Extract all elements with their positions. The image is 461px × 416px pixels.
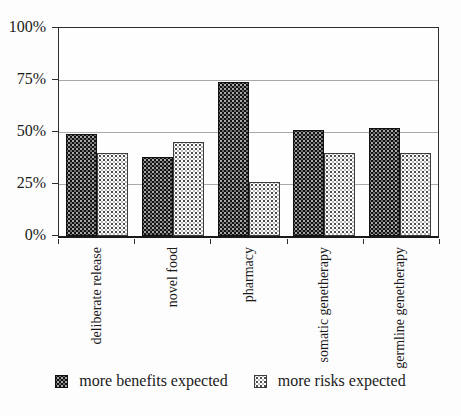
legend-item-benefits: more benefits expected: [55, 372, 227, 390]
legend-item-risks: more risks expected: [254, 372, 406, 390]
bar-risks-0: [97, 153, 128, 236]
x-category-label-2: pharmacy: [240, 247, 257, 302]
x-tick-mark-0: [58, 239, 59, 244]
y-tick-mark-75: [52, 79, 58, 80]
y-tick-mark-25: [52, 183, 58, 184]
x-category-label-4: germline genetherapy: [391, 247, 408, 369]
x-tick-mark-2: [210, 239, 211, 244]
x-tick-mark-3: [287, 239, 288, 244]
bar-risks-3: [324, 153, 355, 236]
bar-risks-1: [173, 142, 204, 236]
benefits-swatch-icon: [55, 375, 68, 388]
y-tick-label-75: 75%: [0, 71, 52, 87]
x-tick-mark-1: [134, 239, 135, 244]
x-category-label-1: novel food: [164, 247, 181, 307]
y-tick-label-25: 25%: [0, 175, 52, 191]
bar-benefits-2: [218, 82, 249, 236]
bar-risks-2: [249, 182, 280, 236]
x-category-label-0: deliberate release: [88, 247, 105, 345]
bar-benefits-3: [293, 130, 324, 236]
y-tick-label-50: 50%: [0, 123, 52, 139]
y-tick-label-100: 100%: [0, 19, 52, 35]
gridline-75: [59, 80, 438, 81]
plot-area: [58, 27, 439, 238]
y-tick-mark-0: [52, 235, 58, 236]
legend-label-benefits: more benefits expected: [79, 372, 227, 390]
bar-benefits-4: [369, 128, 400, 236]
risks-swatch-icon: [254, 375, 267, 388]
y-tick-mark-50: [52, 131, 58, 132]
x-category-label-3: somatic genetherapy: [315, 247, 332, 362]
y-tick-label-0: 0%: [0, 227, 52, 243]
x-tick-mark-5: [439, 239, 440, 244]
y-tick-mark-100: [52, 27, 58, 28]
legend-label-risks: more risks expected: [278, 372, 406, 390]
x-tick-mark-4: [363, 239, 364, 244]
bar-benefits-1: [142, 157, 173, 236]
legend: more benefits expected more risks expect…: [0, 372, 461, 390]
bar-risks-4: [400, 153, 431, 236]
bar-benefits-0: [66, 134, 97, 236]
bar-chart: more benefits expected more risks expect…: [0, 0, 461, 416]
